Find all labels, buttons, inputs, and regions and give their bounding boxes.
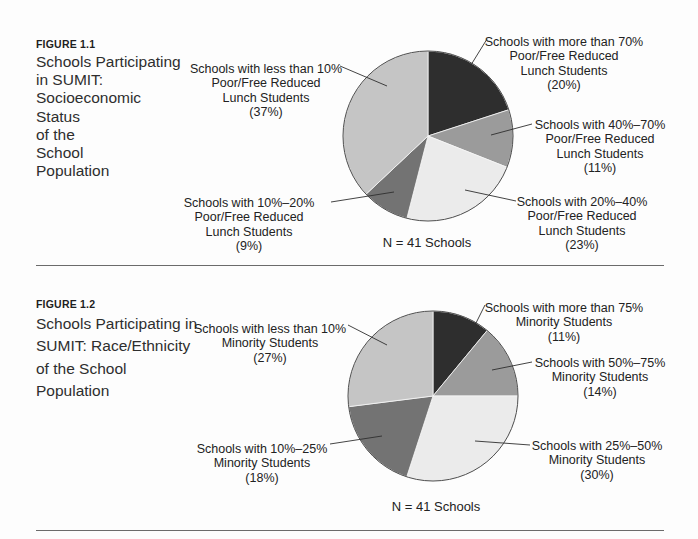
slice-label-20-40pct: Schools with 20%–40% Poor/Free Reduced L…: [497, 195, 667, 252]
slice-label-25-50pct: Schools with 25%–50% Minority Students (…: [512, 439, 682, 482]
figure-1-2-label: FIGURE 1.2: [36, 298, 206, 310]
pie-slice: [348, 311, 433, 407]
slice-label-less-than-10pct-minority: Schools with less than 10% Minority Stud…: [185, 322, 355, 365]
page-bottom-rule: [36, 530, 664, 531]
figure-1-2-section: FIGURE 1.2 Schools Participating in SUMI…: [0, 267, 698, 539]
figure-1-2-caption: FIGURE 1.2 Schools Participating in SUMI…: [36, 298, 206, 402]
slice-label-10-25pct: Schools with 10%–25% Minority Students (…: [177, 442, 347, 485]
slice-label-10-20pct: Schools with 10%–20% Poor/Free Reduced L…: [164, 196, 334, 253]
figure-1-1-section: FIGURE 1.1 Schools Participating in SUMI…: [0, 0, 698, 267]
section-divider: [36, 265, 664, 266]
sample-size-note-fig2: N = 41 Schools: [351, 499, 521, 514]
slice-label-40-70pct: Schools with 40%–70% Poor/Free Reduced L…: [515, 118, 685, 175]
slice-label-50-75pct: Schools with 50%–75% Minority Students (…: [515, 356, 685, 399]
slice-label-more-than-70pct: Schools with more than 70% Poor/Free Red…: [479, 35, 649, 92]
sample-size-note-fig1: N = 41 Schools: [342, 235, 512, 250]
slice-label-less-than-10pct: Schools with less than 10% Poor/Free Red…: [181, 62, 351, 119]
figure-1-1-label: FIGURE 1.1: [36, 38, 206, 50]
figure-1-2-title: Schools Participating in SUMIT: Race/Eth…: [36, 313, 206, 402]
slice-label-more-than-75pct: Schools with more than 75% Minority Stud…: [479, 301, 649, 344]
